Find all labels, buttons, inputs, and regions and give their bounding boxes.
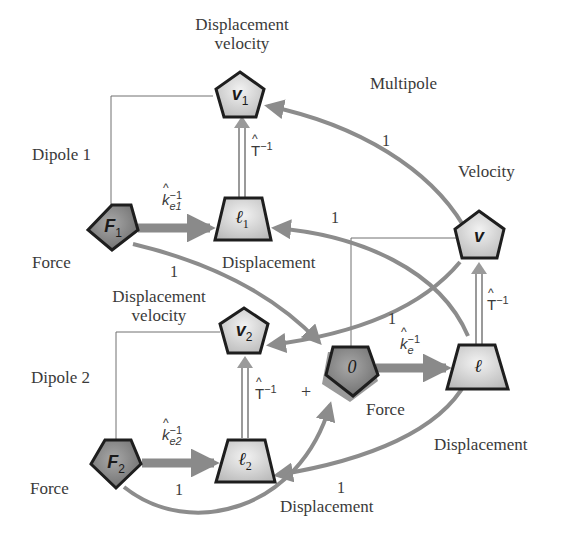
diagram-canvas: v1 F1 ℓ1 v2 F2 ℓ2 0 ℓ v Displacement vel…: [0, 0, 563, 541]
node-v2-subscript: 2: [246, 330, 253, 344]
dipole1-bracket: [111, 96, 213, 205]
node-l2[interactable]: ℓ2: [225, 449, 265, 474]
label-force-0: Force: [366, 401, 405, 420]
node-v1-subscript: 1: [242, 94, 249, 108]
label-disp-velocity-1: Displacement velocity: [192, 16, 292, 53]
ke1-base: k: [162, 191, 170, 208]
label-dipole-1: Dipole 1: [32, 146, 91, 165]
edge-label-ke2: k−1e2: [162, 425, 182, 447]
label-displacement-1: Displacement: [222, 254, 315, 273]
node-l2-symbol: ℓ: [238, 449, 246, 469]
T2-sup: −1: [264, 383, 277, 395]
edge-label-T1: T−1: [251, 140, 273, 159]
label-force-2: Force: [30, 480, 69, 499]
edge-label-F1-zero: 1: [170, 263, 178, 281]
edge-label-v-v2: 1: [388, 310, 396, 328]
node-v[interactable]: v: [459, 226, 499, 247]
node-l2-subscript: 2: [246, 459, 252, 473]
T1-base: T: [251, 142, 260, 159]
arrow-v-to-v1: [268, 106, 463, 225]
group-bracket-lines: [111, 96, 457, 468]
label-displacement-2: Displacement: [280, 498, 373, 517]
ke2-base: k: [162, 426, 170, 443]
node-v1[interactable]: v1: [220, 84, 260, 108]
arrow-v-to-v2: [270, 262, 460, 345]
edge-label-v-v1: 1: [382, 132, 390, 150]
node-F1-subscript: 1: [115, 226, 122, 240]
node-F2[interactable]: F2: [96, 452, 136, 476]
edge-label-T2: T−1: [255, 383, 277, 402]
node-F2-symbol: F: [107, 452, 118, 472]
node-l1-symbol: ℓ: [235, 207, 243, 227]
node-F1[interactable]: F1: [93, 216, 133, 240]
label-displacement: Displacement: [434, 436, 527, 455]
node-F2-subscript: 2: [118, 462, 125, 476]
label-disp-velocity-1-line2: velocity: [192, 35, 292, 54]
label-multipole: Multipole: [370, 75, 437, 94]
edge-label-ke: k−1e: [400, 334, 420, 356]
label-plus: +: [301, 383, 311, 403]
ke-base: k: [400, 335, 408, 352]
label-velocity: Velocity: [458, 163, 515, 182]
edge-label-ke1: k−1e1: [162, 190, 182, 212]
T1-sup: −1: [260, 140, 273, 152]
node-l1[interactable]: ℓ1: [222, 207, 262, 232]
ke-sub: e: [408, 345, 421, 356]
edge-label-F2-zero: 1: [175, 481, 183, 499]
node-l[interactable]: ℓ: [458, 356, 498, 377]
node-zero[interactable]: 0: [332, 357, 372, 378]
node-l1-subscript: 1: [243, 217, 249, 231]
T2-base: T: [255, 385, 264, 402]
label-disp-velocity-2-line1: Displacement: [96, 288, 222, 307]
edge-label-l-l1: 1: [331, 209, 339, 227]
label-dipole-2: Dipole 2: [31, 369, 90, 388]
T-base: T: [487, 296, 496, 313]
label-force-1: Force: [32, 254, 71, 273]
node-F1-symbol: F: [104, 216, 115, 236]
ke1-sub: e1: [170, 201, 183, 212]
ke2-sub: e2: [170, 436, 183, 447]
node-l-symbol: ℓ: [474, 356, 482, 376]
node-v2-symbol: v: [236, 320, 246, 340]
edge-label-l-l2: 1: [337, 479, 345, 497]
label-disp-velocity-2: Displacement velocity: [96, 288, 222, 325]
T-sup: −1: [496, 294, 509, 306]
edge-label-T: T−1: [487, 294, 509, 313]
node-zero-symbol: 0: [348, 357, 357, 377]
node-v-symbol: v: [474, 226, 484, 246]
node-v1-symbol: v: [232, 84, 242, 104]
label-disp-velocity-1-line1: Displacement: [192, 16, 292, 35]
node-v2[interactable]: v2: [224, 320, 264, 344]
label-disp-velocity-2-line2: velocity: [96, 307, 222, 326]
